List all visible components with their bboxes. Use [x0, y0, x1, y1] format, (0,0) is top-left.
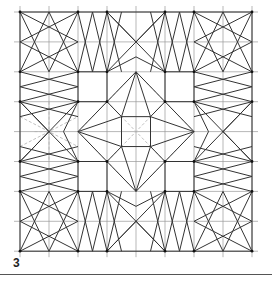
vertex-dot [164, 190, 167, 193]
vertex-dot [193, 250, 196, 253]
vertex-dot [106, 190, 109, 193]
vertex-dot [251, 100, 254, 103]
vertex-dot [193, 70, 196, 73]
vertex-dot [19, 250, 22, 253]
vertex-dot [19, 70, 22, 73]
vertex-dot [164, 70, 167, 73]
figure-number-label: 3 [13, 256, 20, 270]
vertex-dot [164, 11, 167, 14]
vertex-dot [164, 250, 167, 253]
vertex-dot [251, 11, 254, 14]
vertex-dot [19, 160, 22, 163]
vertex-dot [193, 160, 196, 163]
vertex-dot [251, 160, 254, 163]
vertex-dot [77, 11, 80, 14]
geometric-pattern-figure [0, 0, 272, 286]
vertex-dot [77, 100, 80, 103]
vertex-dot [193, 100, 196, 103]
vertex-dot [164, 100, 167, 103]
vertex-dot [106, 250, 109, 253]
vertex-dot [193, 190, 196, 193]
vertex-dot [106, 70, 109, 73]
vertex-dot [106, 160, 109, 163]
vertex-dot [19, 11, 22, 14]
vertex-dot [19, 190, 22, 193]
vertex-dot [251, 190, 254, 193]
vertex-dot [164, 160, 167, 163]
vertex-dot [77, 250, 80, 253]
vertex-dot [193, 11, 196, 14]
vertex-dot [106, 100, 109, 103]
vertex-dot [251, 250, 254, 253]
vertex-dot [77, 70, 80, 73]
vertex-dot [19, 100, 22, 103]
vertex-dot [106, 11, 109, 14]
divider-rule [0, 274, 272, 275]
vertex-dot [77, 160, 80, 163]
vertex-dot [77, 190, 80, 193]
vertex-dot [251, 70, 254, 73]
